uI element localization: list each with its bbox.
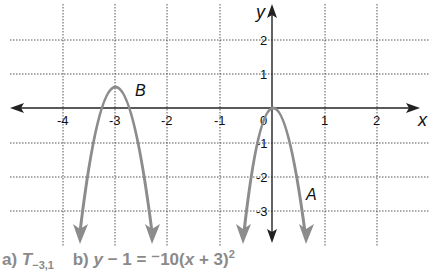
- coordinate-plane: y x -4 -3 -2 -1 0 1 2 2 1 -1 -2 -3 B A: [0, 0, 430, 250]
- y-axis-label: y: [254, 2, 266, 22]
- svg-text:-2: -2: [256, 170, 268, 185]
- parabola-a-right-arrow-icon: [299, 224, 314, 244]
- answer-captions: a) T−3,1 b) y − 1 = ⁻10(x + 3)2: [2, 248, 249, 271]
- parabola-b: [73, 87, 160, 244]
- svg-text:2: 2: [260, 33, 267, 48]
- parabola-a: [236, 108, 314, 244]
- svg-text:-3: -3: [256, 204, 268, 219]
- svg-text:-1: -1: [214, 113, 226, 128]
- svg-text:1: 1: [321, 113, 328, 128]
- parabola-a-label: A: [305, 186, 317, 203]
- x-axis-label: x: [417, 110, 428, 130]
- svg-text:-2: -2: [161, 113, 173, 128]
- svg-text:-3: -3: [109, 113, 121, 128]
- svg-text:2: 2: [373, 113, 380, 128]
- svg-text:-4: -4: [57, 113, 69, 128]
- caption-b: b) y − 1 = ⁻10(x + 3)2: [73, 250, 235, 269]
- x-axis: [10, 103, 420, 113]
- x-tick-labels: -4 -3 -2 -1 0 1 2: [57, 113, 380, 128]
- svg-text:1: 1: [260, 67, 267, 82]
- parabola-b-label: B: [135, 82, 146, 99]
- caption-a: a) T−3,1: [2, 250, 59, 269]
